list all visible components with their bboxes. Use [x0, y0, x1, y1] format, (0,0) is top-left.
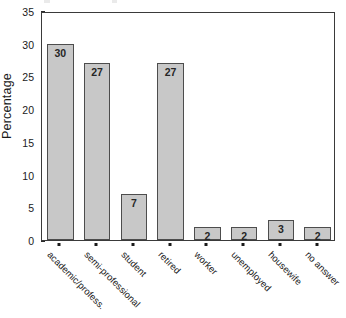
x-tick-mark [131, 243, 134, 246]
x-tick-label: housewife [266, 249, 304, 287]
y-tick-label: 15 [10, 137, 34, 149]
bar: 27 [157, 63, 183, 240]
y-tick-label: 20 [10, 104, 34, 116]
x-tick-mark [95, 243, 98, 246]
x-tick-mark [168, 243, 171, 246]
x-tick-label: student [119, 249, 149, 279]
x-tick-mark [315, 243, 318, 246]
y-tick-label: 25 [10, 71, 34, 83]
bar-value-label: 30 [48, 47, 72, 59]
x-tick-label: worker [193, 249, 221, 277]
bar: 2 [231, 227, 257, 240]
y-tick-label: 5 [10, 202, 34, 214]
bar: 2 [304, 227, 330, 240]
bar-value-label: 2 [195, 230, 219, 242]
bar-value-label: 27 [85, 66, 109, 78]
x-tick-mark [278, 243, 281, 246]
x-tick-mark [58, 243, 61, 246]
x-tick-label: no answer [303, 249, 342, 288]
x-tick-mark [242, 243, 245, 246]
cropped-text-artifact [112, 0, 117, 3]
bar: 7 [121, 194, 147, 240]
plot-area: 30277272232 [41, 12, 335, 241]
x-tick-label: retired [156, 249, 183, 276]
cropped-text-artifact [44, 0, 50, 3]
y-tick-label: 10 [10, 170, 34, 182]
bar-chart: Percentage 05101520253035 30277272232 ac… [0, 0, 346, 318]
bar-value-label: 7 [122, 197, 146, 209]
bar-value-label: 3 [269, 223, 293, 235]
bar-value-label: 2 [232, 230, 256, 242]
bar-value-label: 2 [305, 230, 329, 242]
x-tick-mark [205, 243, 208, 246]
y-tick-label: 30 [10, 39, 34, 51]
y-tick-label: 35 [10, 6, 34, 18]
y-tick-label: 0 [10, 235, 34, 247]
bar: 27 [84, 63, 110, 240]
bar: 2 [194, 227, 220, 240]
bar-value-label: 27 [158, 66, 182, 78]
bar: 3 [268, 220, 294, 240]
bar: 30 [47, 44, 73, 240]
